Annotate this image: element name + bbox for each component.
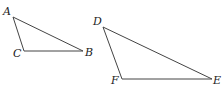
vertex-label-d: D	[92, 15, 102, 28]
triangles-diagram: A B C D E F	[0, 0, 223, 92]
triangle-def	[103, 27, 212, 79]
vertex-label-c: C	[13, 47, 22, 60]
vertex-label-b: B	[84, 46, 93, 59]
vertex-label-f: F	[110, 74, 119, 87]
vertex-label-e: E	[212, 74, 221, 87]
triangle-abc	[13, 17, 83, 51]
vertex-label-a: A	[2, 5, 11, 18]
